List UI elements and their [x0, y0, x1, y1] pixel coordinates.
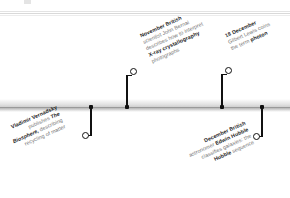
timeline-node-ring	[82, 132, 89, 139]
timeline-caption-lewis: 18 December Gilbert Lewis coins the term…	[224, 15, 274, 53]
timeline-leader-line	[90, 107, 91, 135]
timeline-figure: Vladimir Vernadsky publishes The Biosphe…	[0, 0, 290, 198]
timeline-leader-line	[261, 107, 262, 136]
timeline-leader-line	[221, 74, 227, 75]
timeline-axis-line	[0, 107, 290, 108]
timeline-leader-line	[221, 75, 222, 106]
cropped-header-stub	[24, 0, 31, 4]
header-divider-line	[0, 11, 290, 12]
timeline-node-ring	[253, 133, 260, 140]
timeline-node-ring	[225, 67, 232, 74]
timeline-caption-hubble: December British astronomer Edwin Hubble…	[185, 120, 255, 172]
timeline-leader-line	[126, 76, 127, 106]
timeline-leader-line	[126, 75, 132, 76]
timeline-node-ring	[130, 68, 137, 75]
header-divider-line	[0, 13, 290, 14]
header-divider-line	[0, 15, 290, 16]
timeline-caption-bernal: November British scientist John Bernal d…	[139, 8, 210, 66]
